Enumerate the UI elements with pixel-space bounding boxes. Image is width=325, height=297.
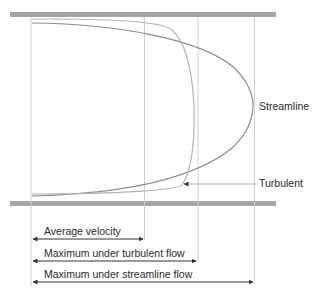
streamline-label: Streamline bbox=[259, 101, 309, 112]
average-velocity-label: Average velocity bbox=[44, 226, 121, 237]
turbulent-curve bbox=[32, 19, 194, 194]
turbulent-label: Turbulent bbox=[259, 178, 303, 189]
max-turbulent-label: Maximum under turbulent flow bbox=[44, 248, 185, 259]
max-streamline-label: Maximum under streamline flow bbox=[44, 269, 192, 280]
pipe-wall-bottom bbox=[10, 201, 276, 206]
pipe-wall-top bbox=[10, 12, 276, 17]
streamline-curve bbox=[32, 23, 253, 196]
